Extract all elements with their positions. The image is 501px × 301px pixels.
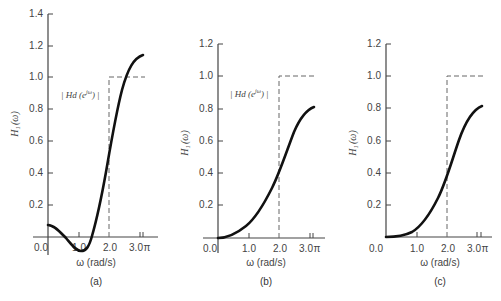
h1-response-curve (48, 55, 143, 251)
ytick-label: 0.6 (29, 135, 43, 146)
xtick-label: 1.0 (410, 243, 424, 254)
xtick-label: π (144, 242, 151, 253)
x-axis-label: ω (rad/s) (420, 257, 459, 268)
ytick-label: 0.2 (367, 199, 381, 210)
panel-b: 1.2 1.0 0.8 0.6 0.4 0.2 0.0 1.0 2.0 3.0 … (179, 38, 325, 287)
ytick-label: 1.4 (29, 8, 43, 19)
xtick-label: π (482, 243, 489, 254)
y-axis-label: H1(ω) (9, 111, 22, 138)
xtick-label: 3.0 (129, 242, 143, 253)
xtick-label: 2.0 (441, 243, 455, 254)
panel-caption: (c) (434, 276, 446, 287)
h1-response-curve (218, 107, 314, 238)
ytick-label: 0.4 (199, 167, 213, 178)
figure: 1.4 1.2 1.0 0.8 0.6 0.4 0.2 0.0 1.0 2.0 … (0, 0, 501, 301)
y-axis-label: H1(ω) (347, 130, 360, 157)
ytick-label: 0.2 (199, 199, 213, 210)
xtick-label: π (314, 243, 321, 254)
x-ticks (79, 232, 143, 237)
y-ticks (386, 44, 391, 205)
xtick-label: 2.0 (273, 243, 287, 254)
desired-response-annotation: | Hd (ejω) | (230, 88, 269, 99)
ytick-label: 0.6 (199, 135, 213, 146)
panel-caption: (b) (260, 276, 272, 287)
svg-text:H1(ω): H1(ω) (179, 130, 192, 157)
x-axis-label: ω (rad/s) (246, 257, 285, 268)
y-ticks (218, 44, 223, 205)
panel-a: 1.4 1.2 1.0 0.8 0.6 0.4 0.2 0.0 1.0 2.0 … (9, 8, 158, 287)
xtick-label: 3.0 (467, 243, 481, 254)
h1-response-curve (386, 106, 482, 237)
ytick-label: 0.6 (367, 135, 381, 146)
x-ticks (249, 233, 313, 238)
svg-text:H1(ω): H1(ω) (347, 130, 360, 157)
ytick-label: 1.0 (29, 71, 43, 82)
ytick-label: 1.2 (199, 38, 213, 49)
svg-text:H1(ω): H1(ω) (9, 111, 22, 138)
xtick-label: 0.0 (203, 243, 217, 254)
xtick-label: 3.0 (299, 243, 313, 254)
ytick-label: 0.2 (29, 199, 43, 210)
x-ticks (417, 232, 481, 237)
ytick-label: 1.2 (29, 40, 43, 51)
ytick-label: 0.8 (367, 102, 381, 113)
ideal-response-line (109, 77, 145, 237)
ytick-label: 0.4 (367, 167, 381, 178)
xtick-label: 1.0 (242, 243, 256, 254)
desired-response-annotation: | Hd (ejω) | (61, 89, 100, 100)
x-axis-label: ω (rad/s) (76, 257, 115, 268)
xtick-label: 2.0 (103, 242, 117, 253)
ytick-label: 0.4 (29, 167, 43, 178)
y-ticks (48, 14, 53, 205)
xtick-label: 0.0 (34, 242, 48, 253)
ytick-label: 0.8 (199, 103, 213, 114)
ytick-label: 1.2 (367, 38, 381, 49)
y-axis-label: H1(ω) (179, 130, 192, 157)
panel-caption: (a) (90, 276, 102, 287)
xtick-label: 0.0 (369, 243, 383, 254)
ytick-label: 1.0 (199, 70, 213, 81)
ytick-label: 0.8 (29, 103, 43, 114)
panel-c: 1.2 1.0 0.8 0.6 0.4 0.2 0.0 1.0 2.0 3.0 … (347, 38, 492, 287)
ytick-label: 1.0 (367, 70, 381, 81)
